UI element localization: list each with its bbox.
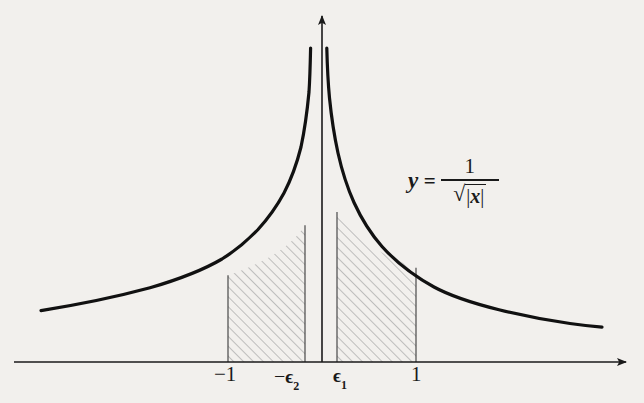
abs-bar-right: | (480, 185, 484, 207)
curve-left-branch (41, 257, 228, 310)
radicand-variable: x (470, 185, 480, 207)
function-equation-annotation: y = 1 √ |x| (408, 156, 499, 206)
axis-label-neg-one: −1 (214, 364, 236, 385)
axis-label-neg-epsilon2: −ϵ2 (274, 366, 299, 390)
figure-canvas: −1 −ϵ2 ϵ1 1 y = 1 √ |x| (0, 0, 644, 403)
radical-icon: √ (453, 183, 465, 206)
radicand: |x| (465, 184, 486, 206)
plot-svg (0, 0, 644, 403)
axis-label-epsilon1: ϵ1 (333, 366, 347, 389)
equation-equals-sign: = (424, 169, 436, 194)
equation-numerator: 1 (458, 156, 481, 179)
equation-denominator: √ |x| (449, 181, 490, 206)
equation-lhs: y (408, 168, 419, 194)
equation-fraction: 1 √ |x| (441, 156, 499, 206)
right-shaded-region (337, 212, 416, 362)
axis-label-one: 1 (411, 364, 422, 385)
square-root-group: √ |x| (453, 183, 486, 206)
